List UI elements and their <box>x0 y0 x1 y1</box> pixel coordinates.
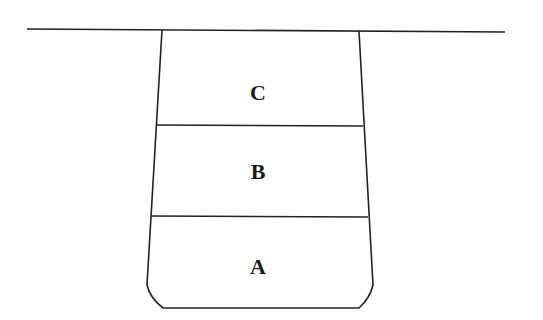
divider-c-b <box>156 125 363 126</box>
layer-label-b: B <box>251 159 266 184</box>
layer-label-c: C <box>250 80 266 105</box>
divider-b-a <box>151 216 368 217</box>
layer-label-a: A <box>250 254 266 279</box>
ground-line <box>27 29 505 32</box>
trench-diagram: C B A <box>0 0 543 320</box>
